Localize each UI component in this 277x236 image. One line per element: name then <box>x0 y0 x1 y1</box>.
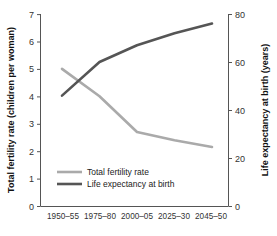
legend: Total fertility rate Life expectancy at … <box>57 167 175 189</box>
series-line-total-fertility-rate <box>62 69 212 147</box>
left-tick-label-4: 4 <box>29 92 34 102</box>
right-tick-label-4: 80 <box>235 10 245 20</box>
right-tick-label-0: 0 <box>235 202 240 212</box>
left-tick-label-7: 7 <box>29 10 34 20</box>
right-axis-ticks: 0 20 40 60 80 <box>229 10 246 212</box>
left-tick-label-6: 6 <box>29 37 34 47</box>
right-tick-label-3: 60 <box>235 58 245 68</box>
right-tick-label-2: 40 <box>235 106 245 116</box>
legend-label-life-expectancy-at-birth: Life expectancy at birth <box>87 179 175 189</box>
left-axis-ticks: 0 1 2 3 4 5 6 7 <box>29 10 41 212</box>
left-tick-label-2: 2 <box>29 147 34 157</box>
chart-container: 0 1 2 3 4 5 6 7 0 20 40 60 <box>0 0 277 236</box>
left-axis-title: Total fertility rate (children per woman… <box>6 27 16 193</box>
x-axis-labels: 1950–55 1975–80 2000–05 2025–30 2045–50 <box>47 212 227 221</box>
x-tick-label-4: 2045–50 <box>195 212 227 221</box>
left-tick-label-3: 3 <box>29 119 34 129</box>
left-tick-label-5: 5 <box>29 64 34 74</box>
x-tick-label-1: 1975–80 <box>84 212 116 221</box>
left-tick-label-0: 0 <box>29 202 34 212</box>
legend-label-total-fertility-rate: Total fertility rate <box>87 167 149 177</box>
right-axis-title: Life expectancy at birth (years) <box>260 44 270 177</box>
x-tick-label-2: 2000–05 <box>121 212 153 221</box>
line-chart: 0 1 2 3 4 5 6 7 0 20 40 60 <box>0 0 277 236</box>
x-tick-label-0: 1950–55 <box>47 212 79 221</box>
right-tick-label-1: 20 <box>235 154 245 164</box>
x-tick-label-3: 2025–30 <box>158 212 190 221</box>
left-tick-label-1: 1 <box>29 174 34 184</box>
